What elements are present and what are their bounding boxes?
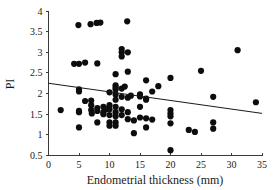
- data-point: [97, 19, 103, 25]
- x-tick-label: 25: [196, 159, 206, 170]
- x-tick-label: 0: [46, 159, 51, 170]
- data-point: [113, 123, 119, 129]
- y-axis-title: PI: [3, 79, 17, 90]
- x-axis-title: Endometrial thickness (mm): [87, 173, 224, 187]
- data-point: [94, 108, 100, 114]
- chart-canvas: 0.511.522.533.54 05101520253035 Endometr…: [0, 0, 273, 190]
- data-point: [119, 53, 125, 59]
- data-point: [119, 106, 125, 112]
- data-point: [149, 116, 155, 122]
- scatter-plot-figure: 0.511.522.533.54 05101520253035 Endometr…: [0, 0, 273, 190]
- data-point: [106, 112, 112, 118]
- data-points-group: [58, 18, 259, 153]
- data-point: [58, 107, 64, 113]
- y-tick-label: 1: [38, 129, 43, 140]
- x-tick-label: 5: [77, 159, 82, 170]
- data-point: [143, 115, 149, 121]
- data-point: [94, 119, 100, 125]
- data-point: [125, 69, 131, 75]
- data-point: [82, 60, 88, 66]
- data-point: [137, 104, 143, 110]
- data-point: [89, 110, 95, 116]
- y-tick-label: 3.5: [30, 26, 43, 37]
- data-point: [210, 126, 216, 132]
- data-point: [253, 99, 259, 105]
- data-point: [149, 88, 155, 94]
- x-tick-label: 35: [257, 159, 267, 170]
- data-point: [113, 113, 119, 119]
- data-point: [198, 68, 204, 74]
- data-point: [76, 109, 82, 115]
- y-tick-label: 4: [38, 6, 43, 17]
- x-axis-tick-labels: 05101520253035: [46, 159, 267, 170]
- axes-group: 0.511.522.533.54 05101520253035: [30, 6, 267, 170]
- data-point: [167, 147, 173, 153]
- data-point: [76, 124, 82, 130]
- data-point: [82, 98, 88, 104]
- data-point: [76, 61, 82, 67]
- data-point: [131, 130, 137, 136]
- data-point: [119, 94, 125, 100]
- data-point: [94, 60, 100, 66]
- x-tick-label: 10: [105, 159, 115, 170]
- y-tick-label: 3: [38, 47, 43, 58]
- y-tick-label: 2: [38, 88, 43, 99]
- data-point: [122, 83, 128, 89]
- data-point: [143, 77, 149, 83]
- data-point: [155, 83, 161, 89]
- data-point: [76, 88, 82, 94]
- y-tick-label: 1.5: [30, 109, 43, 120]
- data-point: [124, 18, 130, 24]
- data-point: [125, 116, 131, 122]
- data-point: [167, 113, 173, 119]
- data-point: [210, 119, 216, 125]
- data-point: [192, 129, 198, 135]
- y-axis-tick-labels: 0.511.522.533.54: [30, 6, 43, 162]
- y-tick-label: 0.5: [30, 150, 43, 161]
- data-point: [106, 123, 112, 129]
- data-point: [235, 47, 241, 53]
- data-point: [125, 49, 131, 55]
- data-point: [186, 127, 192, 133]
- x-tick-label: 20: [166, 159, 176, 170]
- data-point: [113, 104, 119, 110]
- y-tick-label: 2.5: [30, 67, 43, 78]
- data-point: [137, 114, 143, 120]
- data-point: [75, 22, 81, 28]
- x-tick-label: 15: [135, 159, 145, 170]
- data-point: [125, 109, 131, 115]
- data-point: [87, 21, 93, 27]
- data-point: [113, 71, 119, 77]
- data-point: [210, 94, 216, 100]
- data-point: [113, 97, 119, 103]
- data-point: [131, 117, 137, 123]
- data-point: [167, 120, 173, 126]
- data-point: [119, 112, 125, 118]
- data-point: [167, 75, 173, 81]
- data-point: [106, 106, 112, 112]
- data-point: [143, 124, 149, 130]
- x-tick-label: 30: [227, 159, 237, 170]
